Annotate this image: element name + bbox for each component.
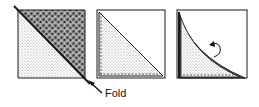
fold-label: Fold [105,88,126,99]
step-1-square [14,6,90,84]
step-2-square [97,10,165,78]
diagram-canvas [0,0,259,107]
fold-arrow-icon [88,80,102,93]
